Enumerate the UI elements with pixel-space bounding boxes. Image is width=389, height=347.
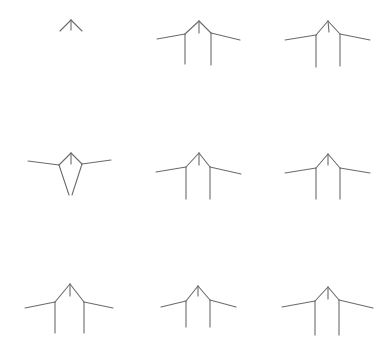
line-segment	[71, 153, 82, 164]
line-segment	[285, 168, 316, 173]
line-segment	[328, 154, 340, 168]
line-segment	[82, 160, 111, 164]
stick-figure-7	[25, 284, 113, 333]
line-segment	[328, 21, 340, 34]
line-segment	[71, 20, 82, 31]
stick-figure-6	[285, 154, 370, 199]
line-segment	[210, 300, 236, 307]
line-segment	[59, 153, 71, 165]
line-segment	[316, 154, 328, 168]
stick-figure-9	[282, 287, 373, 335]
line-segment	[210, 167, 241, 174]
line-segment	[340, 168, 370, 173]
stick-figure-1	[60, 20, 82, 31]
line-segment	[211, 33, 240, 40]
stick-figure-4	[28, 153, 111, 195]
line-segment	[282, 301, 315, 307]
line-segment	[60, 20, 71, 31]
stick-figure-3	[285, 21, 370, 67]
line-segment	[25, 302, 55, 308]
stick-figure-5	[156, 153, 241, 199]
line-segment	[157, 34, 185, 39]
line-segment	[72, 164, 82, 195]
line-segment	[84, 302, 113, 308]
line-segment	[340, 34, 370, 40]
line-segment	[285, 35, 316, 40]
line-segment	[156, 167, 186, 172]
line-segment	[59, 165, 69, 195]
line-segment	[199, 21, 211, 33]
line-segment	[55, 284, 70, 302]
line-segment	[186, 286, 198, 301]
line-segment	[186, 153, 199, 167]
line-segment	[199, 153, 210, 167]
line-segment	[70, 284, 84, 302]
stick-figure-2	[157, 21, 240, 65]
line-figure-grid	[0, 0, 389, 347]
line-segment	[315, 287, 328, 301]
line-segment	[339, 300, 373, 308]
stick-figure-8	[161, 286, 236, 327]
line-segment	[198, 286, 210, 300]
line-segment	[185, 21, 199, 34]
line-segment	[28, 161, 59, 165]
line-segment	[328, 287, 339, 300]
line-segment	[316, 21, 328, 35]
line-segment	[161, 301, 186, 307]
